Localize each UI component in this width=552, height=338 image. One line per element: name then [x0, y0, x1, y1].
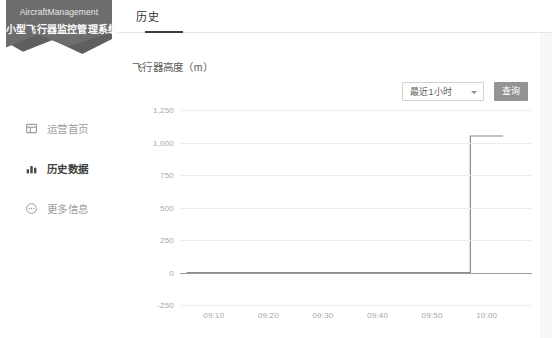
x-axis-tick-label: 09:10 — [189, 311, 239, 320]
sidebar-item-label: 运营首页 — [47, 121, 89, 136]
tab-bar: 历史 — [118, 0, 552, 33]
logo-title-chinese: 小型飞行器监控管理系统 — [6, 21, 112, 36]
altitude-line-chart: 1,2501,0007505002500-25009:1009:2009:300… — [118, 33, 540, 338]
y-axis-tick-label: 250 — [132, 236, 174, 245]
x-axis-tick-label: 09:30 — [298, 311, 348, 320]
chart-gridline — [180, 273, 532, 274]
y-axis-tick-label: 0 — [132, 268, 174, 277]
app-logo[interactable]: AircraftManagement 小型飞行器监控管理系统 — [6, 0, 112, 54]
chart-gridline — [180, 305, 532, 306]
y-axis-tick-label: -250 — [132, 301, 174, 310]
x-axis-tick-label: 09:20 — [243, 311, 293, 320]
chart-gridline — [180, 175, 532, 176]
x-axis-tick-label: 10:00 — [462, 311, 512, 320]
y-axis-tick-label: 500 — [132, 203, 174, 212]
dashboard-icon — [24, 121, 38, 135]
y-axis-tick-label: 1,250 — [132, 106, 174, 115]
y-axis-tick-label: 750 — [132, 171, 174, 180]
chart-card: 飞行器高度（m） 最近1小时 查询 1,2501,0007505002500-2… — [118, 33, 540, 338]
chart-gridline — [180, 143, 532, 144]
sidebar-item-more-info[interactable]: 更多信息 — [0, 188, 118, 228]
tab-history[interactable]: 历史 — [132, 0, 163, 32]
chart-series-layer — [118, 33, 540, 338]
more-circle-icon — [24, 201, 38, 215]
chart-gridline — [180, 240, 532, 241]
logo-title-english: AircraftManagement — [6, 7, 112, 17]
chart-series-line — [187, 136, 504, 273]
sidebar: AircraftManagement 小型飞行器监控管理系统 运营首页 — [0, 0, 118, 338]
app-root: AircraftManagement 小型飞行器监控管理系统 运营首页 — [0, 0, 552, 338]
y-axis-tick-label: 1,000 — [132, 138, 174, 147]
content-area: 历史 飞行器高度（m） 最近1小时 查询 1,2501,000750500250… — [118, 0, 552, 338]
chart-gridline — [180, 110, 532, 111]
sidebar-menu: 运营首页 历史数据 — [0, 108, 118, 228]
sidebar-item-label: 更多信息 — [47, 201, 89, 216]
bar-chart-icon — [24, 161, 38, 175]
chart-gridline — [180, 208, 532, 209]
x-axis-tick-label: 09:40 — [353, 311, 403, 320]
x-axis-tick-label: 09:50 — [407, 311, 457, 320]
sidebar-item-label: 历史数据 — [47, 161, 89, 176]
tab-label: 历史 — [136, 8, 159, 24]
sidebar-item-dashboard[interactable]: 运营首页 — [0, 108, 118, 148]
sidebar-item-history-data[interactable]: 历史数据 — [0, 148, 118, 188]
